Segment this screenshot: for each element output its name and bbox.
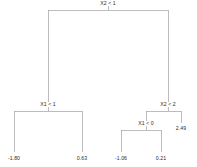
split-node-left: X1 < 1 [39,102,57,107]
split-node-root: X2 < 1 [99,1,117,6]
leaf-node-5: 2.49 [176,126,186,131]
leaf-node-4: 0.21 [156,156,166,161]
split-node-right-left: X1 < 0 [137,121,155,126]
decision-tree-figure: X2 < 1 X1 < 1 X2 < 2 X1 < 0 -1.80 0.63 -… [0,0,197,167]
leaf-node-3: -1.06 [115,156,127,161]
tree-edges [0,0,197,167]
leaf-node-1: -1.80 [8,156,20,161]
split-node-right: X2 < 2 [159,102,177,107]
leaf-node-2: 0.63 [77,156,87,161]
